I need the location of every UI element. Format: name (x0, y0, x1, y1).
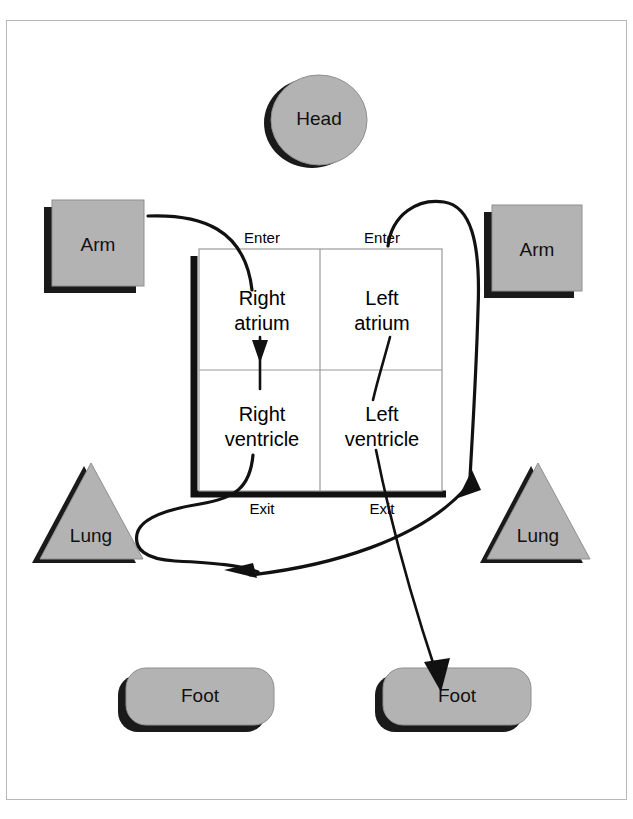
body-part-lung-left: Lung (32, 463, 143, 563)
right-atrium-label-line1: Right (239, 287, 286, 309)
circulatory-diagram-canvas: Head Arm Arm Lung Lung (0, 0, 633, 819)
arm-left-label: Arm (81, 234, 116, 255)
flow-line-lung-left-to-lung-right (250, 488, 466, 575)
body-part-arm-right: Arm (484, 205, 582, 298)
right-ventricle-label-line1: Right (239, 403, 286, 425)
body-part-lung-right: Lung (480, 463, 590, 563)
left-atrium-label-line2: atrium (354, 312, 410, 334)
left-ventricle-label-line1: Left (365, 403, 399, 425)
left-ventricle-label-line2: ventricle (345, 428, 419, 450)
left-atrium-label-line1: Left (365, 287, 399, 309)
diagram-page: Head Arm Arm Lung Lung (0, 0, 633, 819)
lung-right-label: Lung (517, 525, 559, 546)
head-label: Head (296, 108, 341, 129)
lung-left-label: Lung (70, 525, 112, 546)
port-label-right-enter: Enter (244, 229, 280, 246)
body-part-foot-left: Foot (118, 668, 274, 732)
right-atrium-label-line2: atrium (234, 312, 290, 334)
body-part-foot-right: Foot (375, 668, 531, 732)
right-ventricle-label-line2: ventricle (225, 428, 299, 450)
heart-box: Right atrium Left atrium Right ventricle… (194, 229, 446, 517)
port-label-right-exit: Exit (249, 500, 275, 517)
port-label-left-enter: Enter (364, 229, 400, 246)
foot-right-label: Foot (438, 685, 477, 706)
body-part-arm-left: Arm (44, 200, 144, 293)
arm-right-label: Arm (520, 239, 555, 260)
body-part-head: Head (264, 75, 367, 168)
foot-left-label: Foot (181, 685, 220, 706)
